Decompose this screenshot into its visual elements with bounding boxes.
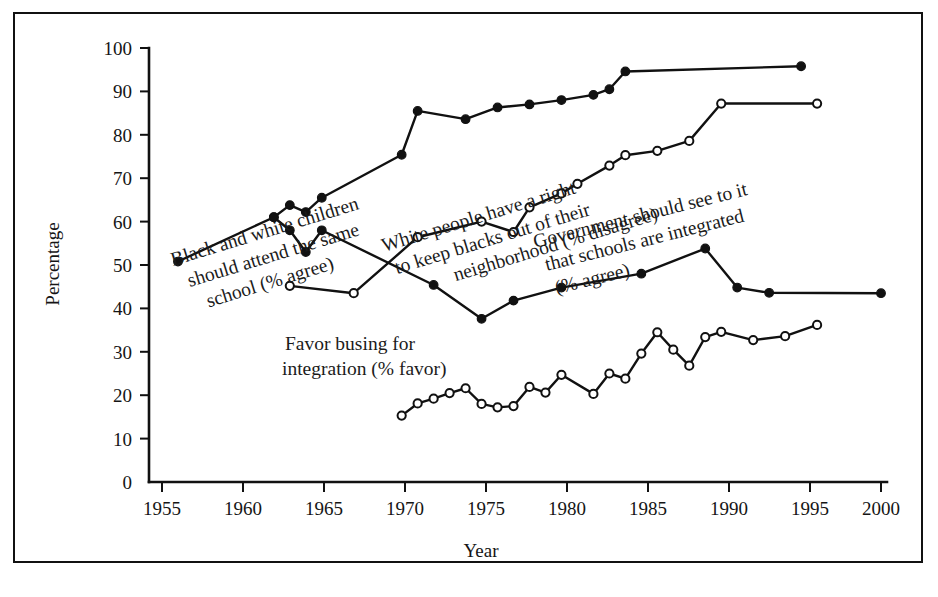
figure-frame: 100 90 80 70 60 50 40 30 20 10 <box>13 12 923 563</box>
data-point-marker <box>525 100 534 109</box>
x-tick-label-1985: 1985 <box>629 498 667 519</box>
x-tick-label-2000: 2000 <box>862 498 900 519</box>
y-tick-label-10: 10 <box>113 429 132 450</box>
y-tick-label-50: 50 <box>113 255 132 276</box>
y-tick-label-60: 60 <box>113 212 132 233</box>
y-tick-label-30: 30 <box>113 342 132 363</box>
data-point-marker <box>813 321 821 329</box>
data-point-marker <box>781 332 789 340</box>
y-tick-label-40: 40 <box>113 298 132 319</box>
y-tick-label-80: 80 <box>113 125 132 146</box>
x-tick-label-1960: 1960 <box>224 498 262 519</box>
data-point-marker <box>397 150 406 159</box>
series-3 <box>398 321 822 420</box>
y-tick-label-90: 90 <box>113 81 132 102</box>
data-point-marker <box>877 289 886 298</box>
data-point-marker <box>605 85 614 94</box>
data-point-marker <box>509 402 517 410</box>
data-point-marker <box>541 389 549 397</box>
data-point-marker <box>493 403 501 411</box>
data-point-marker <box>621 375 629 383</box>
data-point-marker <box>813 99 821 107</box>
data-point-marker <box>621 67 630 76</box>
data-point-marker <box>749 336 757 344</box>
data-point-marker <box>557 371 565 379</box>
data-point-marker <box>733 283 742 292</box>
data-point-marker <box>525 383 533 391</box>
figure-page: 100 90 80 70 60 50 40 30 20 10 <box>0 0 938 597</box>
x-axis-title: Year <box>463 540 499 561</box>
y-tick-label-100: 100 <box>104 38 133 59</box>
data-point-marker <box>413 107 422 116</box>
x-tick-label-1995: 1995 <box>791 498 829 519</box>
data-point-marker <box>461 384 469 392</box>
data-point-marker <box>701 244 710 253</box>
y-axis-ticks: 100 90 80 70 60 50 40 30 20 10 <box>104 38 150 493</box>
data-point-marker <box>653 328 661 336</box>
annotation-line-1: Favor busing for <box>285 333 415 354</box>
data-point-marker <box>286 201 295 210</box>
x-tick-label-1990: 1990 <box>710 498 748 519</box>
annotation-favor-busing: Favor busing for integration (% favor) <box>282 333 447 380</box>
data-point-marker <box>477 315 486 324</box>
x-tick-label-1970: 1970 <box>386 498 424 519</box>
data-point-marker <box>477 400 485 408</box>
y-tick-label-0: 0 <box>123 472 133 493</box>
data-point-marker <box>637 349 645 357</box>
data-point-marker <box>429 281 438 290</box>
x-tick-label-1980: 1980 <box>548 498 586 519</box>
annotation-line-2: integration (% favor) <box>282 358 447 380</box>
data-point-marker <box>621 151 629 159</box>
data-point-marker <box>797 62 806 71</box>
data-point-marker <box>493 103 502 112</box>
data-point-marker <box>589 91 598 100</box>
data-point-marker <box>317 193 326 202</box>
data-point-marker <box>430 395 438 403</box>
data-point-marker <box>637 269 646 278</box>
annotation-black-white-children: Black and white children should attend t… <box>168 193 376 319</box>
y-tick-label-70: 70 <box>113 168 132 189</box>
data-point-marker <box>398 412 406 420</box>
data-point-marker <box>350 289 358 297</box>
x-axis-ticks: 1955 1960 1965 1970 1975 1980 1985 1990 … <box>143 482 900 519</box>
y-tick-label-20: 20 <box>113 385 132 406</box>
data-point-marker <box>509 296 518 305</box>
data-point-marker <box>765 288 774 297</box>
x-tick-label-1965: 1965 <box>305 498 343 519</box>
data-point-marker <box>461 115 470 124</box>
data-point-marker <box>653 147 661 155</box>
data-point-marker <box>685 137 693 145</box>
data-point-marker <box>557 96 566 105</box>
y-axis-title: Percentage <box>42 222 63 305</box>
data-point-marker <box>701 333 709 341</box>
data-point-marker <box>414 399 422 407</box>
data-point-marker <box>589 390 597 398</box>
x-tick-label-1975: 1975 <box>467 498 505 519</box>
line-chart: 100 90 80 70 60 50 40 30 20 10 <box>15 14 921 561</box>
x-tick-label-1955: 1955 <box>143 498 181 519</box>
data-point-marker <box>669 346 677 354</box>
data-point-marker <box>685 362 693 370</box>
data-point-marker <box>717 99 725 107</box>
data-point-marker <box>605 162 613 170</box>
data-point-marker <box>605 369 613 377</box>
data-point-marker <box>717 328 725 336</box>
data-point-marker <box>446 389 454 397</box>
